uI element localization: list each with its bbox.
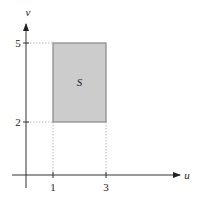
v-axis-label: v bbox=[26, 6, 31, 18]
tick-label-v2: 2 bbox=[15, 116, 21, 128]
tick-label-v5: 5 bbox=[15, 37, 21, 49]
u-axis-label: u bbox=[184, 169, 190, 181]
uv-plane-diagram: S v u 5 2 1 3 bbox=[0, 0, 203, 204]
region-label: S bbox=[77, 76, 83, 88]
tick-label-u3: 3 bbox=[103, 181, 109, 193]
tick-label-u1: 1 bbox=[50, 181, 56, 193]
